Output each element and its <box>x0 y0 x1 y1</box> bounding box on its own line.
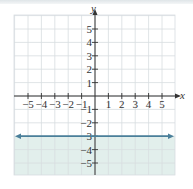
x-tick-label: 5 <box>159 98 165 110</box>
y-tick-label: −5 <box>80 157 92 169</box>
x-axis-label: x <box>179 89 185 101</box>
x-tick-label: 3 <box>132 98 138 110</box>
y-tick-label: 5 <box>87 23 93 35</box>
y-tick-label: 3 <box>87 50 93 62</box>
y-axis-label: y <box>90 2 96 14</box>
coordinate-plane: −5−4−3−2−11234554321−1−2−3−4−5 x y <box>0 0 193 189</box>
x-tick-label: 2 <box>119 98 125 110</box>
y-tick-label: 2 <box>87 63 93 75</box>
y-tick-label: −4 <box>80 144 92 156</box>
y-tick-label: 4 <box>87 36 93 48</box>
y-tick-label: −1 <box>80 103 92 115</box>
x-tick-label: 4 <box>146 98 152 110</box>
y-tick-label: −2 <box>80 117 92 129</box>
x-tick-label: −4 <box>36 98 48 110</box>
x-tick-label: −2 <box>62 98 74 110</box>
y-tick-label: 1 <box>87 77 93 89</box>
x-tick-label: 1 <box>106 98 112 110</box>
x-tick-label: −3 <box>49 98 61 110</box>
x-tick-label: −5 <box>22 98 34 110</box>
